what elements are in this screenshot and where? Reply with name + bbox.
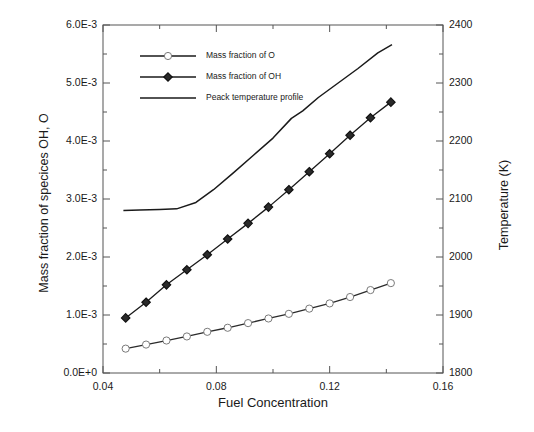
y-right-tick-label: 2100 — [449, 192, 495, 204]
series-marker-0 — [163, 337, 170, 344]
legend-label-0: Mass fraction of O — [206, 50, 275, 60]
series-marker-0 — [244, 320, 251, 327]
chart-figure: Mass fraction of specices OH, O Temperat… — [0, 0, 534, 432]
y-left-tick-label: 0.0E+0 — [45, 366, 97, 378]
data-series-group — [121, 45, 395, 353]
legend-symbols — [140, 52, 196, 98]
series-marker-0 — [204, 328, 211, 335]
series-marker-0 — [306, 305, 313, 312]
y-axis-right-title: Temperature (K) — [497, 105, 511, 305]
legend-marker-1 — [164, 73, 172, 81]
series-marker-0 — [285, 310, 292, 317]
y-left-tick-label: 2.0E-3 — [45, 250, 97, 262]
series-marker-0 — [265, 315, 272, 322]
legend-label-2: Peack temperature profile — [206, 92, 303, 102]
y-right-tick-label: 2400 — [449, 18, 495, 30]
x-tick-label: 0.08 — [193, 380, 239, 392]
series-marker-0 — [367, 286, 374, 293]
series-marker-0 — [387, 280, 394, 287]
series-line-2 — [123, 45, 392, 211]
y-left-tick-label: 3.0E-3 — [45, 192, 97, 204]
y-right-tick-label: 1900 — [449, 308, 495, 320]
series-marker-0 — [326, 300, 333, 307]
x-tick-label: 0.16 — [420, 380, 466, 392]
y-left-tick-label: 5.0E-3 — [45, 76, 97, 88]
legend-label-1: Mass fraction of OH — [206, 71, 281, 81]
y-right-tick-label: 1800 — [449, 366, 495, 378]
x-tick-label: 0.04 — [80, 380, 126, 392]
x-tick-label: 0.12 — [307, 380, 353, 392]
series-marker-0 — [346, 293, 353, 300]
y-right-tick-label: 2000 — [449, 250, 495, 262]
legend-marker-0 — [164, 52, 171, 59]
series-marker-0 — [224, 324, 231, 331]
series-marker-0 — [142, 341, 149, 348]
series-marker-0 — [122, 345, 129, 352]
y-right-tick-label: 2200 — [449, 134, 495, 146]
series-marker-0 — [183, 333, 190, 340]
y-left-tick-label: 6.0E-3 — [45, 18, 97, 30]
x-axis-title: Fuel Concentration — [103, 395, 443, 410]
y-right-tick-label: 2300 — [449, 76, 495, 88]
y-left-tick-label: 1.0E-3 — [45, 308, 97, 320]
y-left-tick-label: 4.0E-3 — [45, 134, 97, 146]
